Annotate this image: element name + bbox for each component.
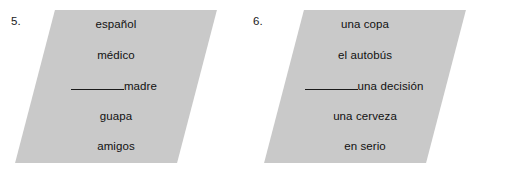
- exercise-group-6: 6. una copa el autobús una decisión una …: [242, 0, 505, 180]
- exercise-number-5: 5.: [11, 16, 21, 28]
- word-label: el autobús: [338, 48, 392, 63]
- exercise-number-6: 6.: [253, 16, 263, 28]
- word-row: una copa: [284, 17, 446, 32]
- word-label: español: [96, 17, 137, 32]
- word-row: en serio: [284, 139, 446, 154]
- word-label: en serio: [344, 139, 386, 154]
- blank-answer-line[interactable]: [71, 78, 124, 90]
- word-row: amigos: [35, 139, 197, 154]
- answer-panel-6-content: una copa el autobús una decisión una cer…: [284, 10, 446, 163]
- word-row: español: [35, 17, 197, 32]
- word-row: médico: [35, 48, 197, 63]
- exercise-group-5: 5. español médico madre guapa amigos: [0, 0, 250, 180]
- answer-panel-5: español médico madre guapa amigos: [15, 10, 217, 163]
- blank-answer-line[interactable]: [305, 78, 358, 90]
- answer-panel-6: una copa el autobús una decisión una cer…: [264, 10, 466, 163]
- word-label: madre: [124, 79, 157, 94]
- word-label: una decisión: [358, 79, 424, 94]
- word-row-with-blank: madre: [35, 78, 197, 93]
- word-label: una cerveza: [333, 109, 397, 124]
- word-row-with-blank: una decisión: [284, 78, 446, 93]
- worksheet-page: 5. español médico madre guapa amigos: [0, 0, 505, 180]
- answer-panel-5-content: español médico madre guapa amigos: [35, 10, 197, 163]
- word-row: guapa: [35, 109, 197, 124]
- word-label: guapa: [100, 109, 132, 124]
- word-label: amigos: [97, 139, 135, 154]
- word-label: una copa: [341, 17, 389, 32]
- word-label: médico: [97, 48, 135, 63]
- word-row: el autobús: [284, 48, 446, 63]
- word-row: una cerveza: [284, 109, 446, 124]
